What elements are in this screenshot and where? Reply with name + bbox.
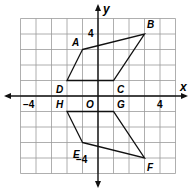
y-axis-label: y: [102, 2, 111, 16]
coordinate-plane-figure: x y O −4 4 4 −4 A B C D E F G H: [0, 0, 192, 194]
vertex-label-f: F: [147, 162, 154, 173]
y-axis-down-arrow-icon: [95, 181, 101, 188]
vertex-label-d: D: [56, 84, 63, 95]
tick-label-x-neg4: −4: [23, 99, 35, 110]
x-axis-left-arrow-icon: [4, 93, 11, 99]
tick-label-y-4: 4: [88, 28, 94, 39]
vertex-label-a: A: [71, 37, 79, 48]
tick-label-x-4: 4: [157, 99, 163, 110]
y-axis-up-arrow-icon: [95, 4, 101, 11]
x-axis-label: x: [179, 80, 188, 94]
vertex-label-e: E: [73, 149, 80, 160]
vertex-label-b: B: [147, 19, 154, 30]
origin-label: O: [86, 99, 94, 110]
vertex-label-g: G: [117, 99, 125, 110]
vertex-label-c: C: [117, 84, 125, 95]
vertex-label-h: H: [56, 99, 64, 110]
